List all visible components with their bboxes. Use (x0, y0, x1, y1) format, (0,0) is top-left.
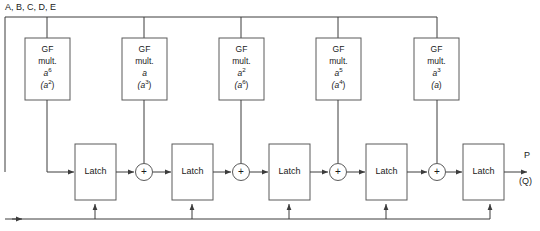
adder-symbol-2: + (231, 167, 251, 177)
gf-mult-block-1-line1: GF (25, 43, 70, 55)
gf-mult-block-5-line1: GF (414, 43, 459, 55)
input-bus-label: A, B, C, D, E (5, 2, 56, 13)
clock-bus-wire (5, 204, 490, 219)
gf-mult-block-1: GF mult. a6 (a2) (25, 43, 70, 91)
adder-symbol-1: + (134, 167, 154, 177)
output-label-alternate: (Q) (519, 176, 532, 186)
gf-mult-block-4: GF mult. a5 (a4) (316, 43, 361, 91)
gf-mult-block-5-alt: (a) (414, 79, 459, 91)
latch-label-2: Latch (172, 166, 213, 176)
latch-label-1: Latch (75, 166, 116, 176)
gf-mult-block-4-line1: GF (316, 43, 361, 55)
gf-mult-block-1-alt: (a2) (25, 79, 70, 91)
gf-mult-block-5-coef: a3 (414, 67, 459, 79)
latch-label-5: Latch (463, 166, 504, 176)
gf-mult-block-2-line1: GF (122, 43, 167, 55)
latch-label-3: Latch (269, 166, 310, 176)
gf-mult-block-5: GF mult. a3 (a) (414, 43, 459, 91)
adder-symbol-3: + (328, 167, 348, 177)
gf-mult-block-2: GF mult. a (a3) (122, 43, 167, 91)
gf-mult-block-3-alt: (a6) (219, 79, 264, 91)
output-label-primary: P (524, 150, 530, 160)
circuit-diagram: A, B, C, D, E GF mult. a6 (a2) GF mult. … (0, 0, 540, 231)
gf-mult-block-2-alt: (a3) (122, 79, 167, 91)
gf-mult-block-3: GF mult. a2 (a6) (219, 43, 264, 91)
gf-mult-block-4-alt: (a4) (316, 79, 361, 91)
latch-label-4: Latch (366, 166, 407, 176)
diagram-canvas (0, 0, 540, 231)
gf-mult-block-2-line2: mult. (122, 55, 167, 67)
gf-mult-block-3-line1: GF (219, 43, 264, 55)
adder-symbol-4: + (427, 167, 447, 177)
